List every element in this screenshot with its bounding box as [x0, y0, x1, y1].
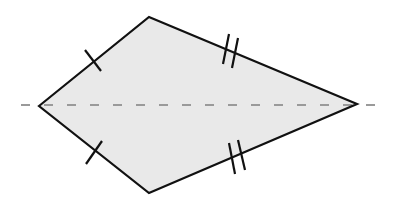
- kite-diagram: Kite with line of symmetry: [0, 0, 412, 201]
- diagram-svg: [0, 0, 412, 201]
- kite-shape: [39, 17, 357, 193]
